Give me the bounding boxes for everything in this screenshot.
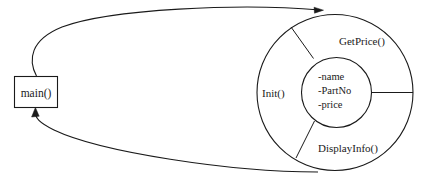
diagram-canvas: main() -name -PartNo -price GetPrice() I… <box>0 0 430 185</box>
return-arrow-head <box>32 108 40 118</box>
method-label-displayinfo: DisplayInfo() <box>318 142 378 155</box>
call-arrow-head <box>314 7 324 13</box>
object-model-diagram: main() -name -PartNo -price GetPrice() I… <box>0 0 430 185</box>
attribute-item: -PartNo <box>318 85 351 96</box>
attribute-item: -name <box>318 71 345 82</box>
main-function-box: main() <box>15 77 58 108</box>
method-label-init: Init() <box>262 87 285 100</box>
attribute-item: -price <box>318 99 343 110</box>
method-label-getprice: GetPrice() <box>339 35 385 48</box>
main-function-label: main() <box>21 87 52 100</box>
